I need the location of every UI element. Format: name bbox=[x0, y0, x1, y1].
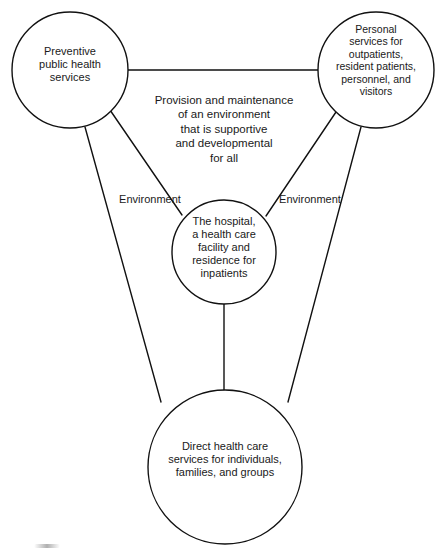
diagram-canvas bbox=[0, 0, 443, 555]
connector-personal-hospital bbox=[266, 112, 336, 216]
connector-preventive-hospital bbox=[110, 110, 182, 215]
caption-marker bbox=[34, 544, 60, 548]
circle-hospital[interactable] bbox=[172, 200, 276, 304]
node-circle-group bbox=[12, 12, 434, 544]
circle-personal-services[interactable] bbox=[318, 12, 434, 128]
diagram-root: Preventive public health services Person… bbox=[0, 0, 443, 555]
circle-preventive-public-health-services[interactable] bbox=[12, 12, 128, 128]
circle-direct-health-care-services[interactable] bbox=[148, 390, 302, 544]
